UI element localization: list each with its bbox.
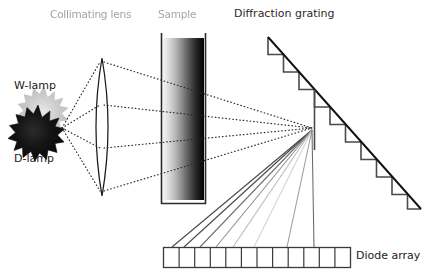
ray-collimated-1	[104, 62, 312, 128]
collimating-lens	[96, 58, 108, 196]
label-diode-array: Diode array	[356, 250, 420, 261]
diffracted-ray-5	[233, 130, 312, 247]
sample-cell-gradient	[163, 38, 204, 200]
grating-blaze-line	[268, 37, 421, 209]
diffraction-grating	[268, 37, 421, 209]
optical-diagram: Collimating lens Sample Diffraction grat…	[0, 0, 435, 278]
ray-incident-1a	[62, 62, 100, 128]
label-collimating-lens: Collimating lens	[50, 9, 131, 20]
diffracted-ray-4	[216, 130, 312, 247]
ray-collimated-3	[104, 128, 312, 148]
diode-array	[164, 248, 351, 268]
label-w-lamp: W-lamp	[14, 80, 56, 91]
ray-collimated-2	[104, 105, 312, 128]
diagram-canvas	[0, 0, 435, 278]
collimating-lens-body	[96, 58, 108, 196]
label-d-lamp: D-lamp	[14, 153, 54, 164]
label-sample: Sample	[158, 9, 196, 20]
collimated-rays-lens-to-grating	[104, 62, 312, 191]
diffracted-ray-3	[200, 130, 312, 247]
label-diffraction-grating: Diffraction grating	[234, 8, 335, 19]
diffracted-ray-6	[254, 130, 312, 247]
sample-cell	[161, 33, 206, 204]
ray-collimated-4	[104, 128, 312, 191]
incident-rays-source-to-lens	[62, 62, 100, 191]
